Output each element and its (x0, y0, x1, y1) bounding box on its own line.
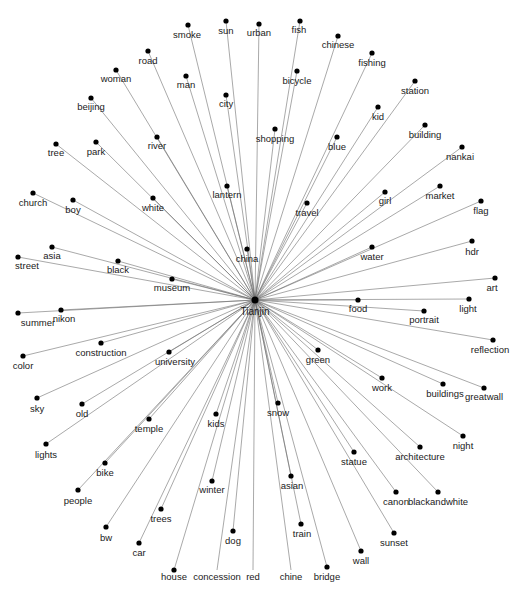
node-old[interactable] (79, 401, 84, 406)
node-bridge[interactable] (324, 564, 329, 569)
node-river[interactable] (154, 134, 159, 139)
node-nankai[interactable] (459, 144, 464, 149)
node-blue[interactable] (334, 134, 339, 139)
edge-tianjin-asian (255, 300, 291, 476)
node-asian[interactable] (288, 473, 293, 478)
node-label-sun: sun (218, 25, 233, 36)
node-sun[interactable] (223, 18, 228, 23)
node-girl[interactable] (382, 189, 387, 194)
node-nikon[interactable] (58, 307, 63, 312)
node-white[interactable] (150, 195, 155, 200)
tag-network-graph: smokesunurbanfishchinesefishingstationki… (0, 0, 517, 593)
node-street[interactable] (15, 254, 20, 259)
node-summer[interactable] (15, 310, 20, 315)
edge-tianjin-wall (255, 300, 361, 551)
node-shopping[interactable] (272, 126, 277, 131)
node-work[interactable] (379, 375, 384, 380)
node-car[interactable] (136, 540, 141, 545)
node-color[interactable] (20, 353, 25, 358)
node-label-night: night (453, 440, 474, 451)
center-node-tianjin[interactable] (252, 297, 259, 304)
node-flag[interactable] (478, 198, 483, 203)
node-greatwall[interactable] (481, 385, 486, 390)
node-bike[interactable] (102, 460, 107, 465)
node-label-train: train (293, 528, 311, 539)
node-hdr[interactable] (469, 238, 474, 243)
node-snow[interactable] (275, 400, 280, 405)
node-smoke[interactable] (185, 22, 190, 27)
node-label-travel: travel (295, 207, 318, 218)
node-art[interactable] (492, 275, 497, 280)
node-park[interactable] (93, 139, 98, 144)
node-wall[interactable] (358, 548, 363, 553)
node-label-work: work (371, 382, 392, 393)
node-bicycle[interactable] (294, 68, 299, 73)
edge-tianjin-bw (106, 300, 255, 527)
node-asia[interactable] (49, 244, 54, 249)
node-trees[interactable] (158, 506, 163, 511)
node-label-buildings: buildings (426, 388, 464, 399)
node-winter[interactable] (209, 478, 214, 483)
node-label-house: house (161, 571, 187, 582)
node-university[interactable] (166, 349, 171, 354)
node-black[interactable] (115, 258, 120, 263)
node-chinese[interactable] (335, 33, 340, 38)
node-train[interactable] (298, 521, 303, 526)
node-man[interactable] (183, 73, 188, 78)
node-church[interactable] (30, 190, 35, 195)
node-label-park: park (87, 146, 106, 157)
node-water[interactable] (369, 244, 374, 249)
node-label-construction: construction (75, 347, 126, 358)
node-kid[interactable] (375, 104, 380, 109)
node-architecture[interactable] (417, 444, 422, 449)
node-city[interactable] (223, 92, 228, 97)
node-portrait[interactable] (421, 308, 426, 313)
node-travel[interactable] (304, 200, 309, 205)
edge-tianjin-bike (105, 300, 255, 463)
node-kids[interactable] (213, 411, 218, 416)
node-road[interactable] (145, 48, 150, 53)
node-buildings[interactable] (440, 381, 445, 386)
edge-tianjin-color (23, 300, 255, 356)
node-urban[interactable] (256, 21, 261, 26)
node-label-white: white (141, 202, 164, 213)
node-statue[interactable] (351, 449, 356, 454)
edge-tianjin-girl (255, 192, 385, 300)
node-boy[interactable] (70, 197, 75, 202)
center-node-group[interactable]: Tianjin (240, 297, 269, 318)
node-label-wall: wall (352, 555, 369, 566)
node-tree[interactable] (53, 141, 58, 146)
node-bw[interactable] (103, 524, 108, 529)
node-food[interactable] (355, 297, 360, 302)
node-sky[interactable] (34, 395, 39, 400)
node-construction[interactable] (98, 340, 103, 345)
node-lantern[interactable] (224, 183, 229, 188)
node-fishing[interactable] (369, 50, 374, 55)
node-people[interactable] (75, 487, 80, 492)
node-label-concession: concession (193, 571, 241, 582)
node-light[interactable] (466, 296, 471, 301)
edge-tianjin-statue (255, 300, 354, 452)
node-sunset[interactable] (391, 530, 396, 535)
node-station[interactable] (412, 78, 417, 83)
node-china[interactable] (244, 246, 249, 251)
edge-tianjin-street (18, 257, 255, 300)
node-beijing[interactable] (88, 95, 93, 100)
node-dog[interactable] (230, 528, 235, 533)
node-building[interactable] (422, 122, 427, 127)
node-green[interactable] (315, 347, 320, 352)
node-canon[interactable] (393, 489, 398, 494)
node-lights[interactable] (43, 441, 48, 446)
node-label-university: university (155, 356, 195, 367)
node-reflection[interactable] (490, 337, 495, 342)
node-label-summer: summer (21, 317, 55, 328)
node-blackandwhite[interactable] (435, 489, 440, 494)
node-woman[interactable] (113, 67, 118, 72)
node-label-nikon: nikon (53, 313, 76, 324)
node-night[interactable] (460, 433, 465, 438)
node-temple[interactable] (146, 416, 151, 421)
node-label-hdr: hdr (465, 246, 479, 257)
node-fish[interactable] (297, 18, 302, 23)
node-market[interactable] (437, 183, 442, 188)
node-museum[interactable] (169, 276, 174, 281)
